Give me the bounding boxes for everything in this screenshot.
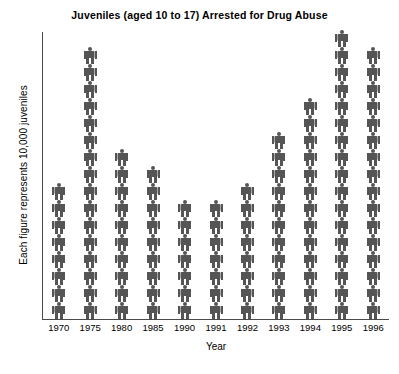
person-figure-icon <box>335 285 348 302</box>
person-figure-icon <box>84 115 97 132</box>
person-figure-icon <box>241 217 254 234</box>
person-figure-icon <box>304 251 317 268</box>
person-figure-icon <box>84 98 97 115</box>
person-figure-icon <box>367 183 380 200</box>
pictograph-chart: Juveniles (aged 10 to 17) Arrested for D… <box>0 0 399 374</box>
person-figure-icon <box>84 200 97 217</box>
x-axis-line <box>42 319 389 320</box>
pictograph-column <box>109 149 135 319</box>
person-figure-icon <box>147 217 160 234</box>
person-figure-icon <box>367 166 380 183</box>
person-figure-icon <box>147 234 160 251</box>
person-figure-icon <box>367 268 380 285</box>
person-figure-icon <box>335 183 348 200</box>
person-figure-icon <box>115 149 128 166</box>
person-figure-icon <box>304 98 317 115</box>
person-figure-icon <box>304 166 317 183</box>
page-title: Juveniles (aged 10 to 17) Arrested for D… <box>0 9 399 21</box>
person-figure-icon <box>335 98 348 115</box>
person-figure-icon <box>210 200 223 217</box>
person-figure-icon <box>147 251 160 268</box>
person-figure-icon <box>367 285 380 302</box>
person-figure-icon <box>335 302 348 319</box>
pictograph-column <box>266 132 292 319</box>
person-figure-icon <box>84 166 97 183</box>
person-figure-icon <box>272 217 285 234</box>
person-figure-icon <box>272 285 285 302</box>
person-figure-icon <box>367 47 380 64</box>
person-figure-icon <box>147 268 160 285</box>
person-figure-icon <box>335 115 348 132</box>
person-figure-icon <box>84 234 97 251</box>
person-figure-icon <box>335 64 348 81</box>
person-figure-icon <box>84 268 97 285</box>
person-figure-icon <box>367 302 380 319</box>
person-figure-icon <box>272 268 285 285</box>
person-figure-icon <box>84 81 97 98</box>
person-figure-icon <box>115 183 128 200</box>
person-figure-icon <box>367 200 380 217</box>
pictograph-column <box>297 98 323 319</box>
person-figure-icon <box>147 166 160 183</box>
person-figure-icon <box>367 217 380 234</box>
person-figure-icon <box>147 183 160 200</box>
person-figure-icon <box>115 217 128 234</box>
person-figure-icon <box>115 234 128 251</box>
person-figure-icon <box>84 183 97 200</box>
person-figure-icon <box>52 285 65 302</box>
person-figure-icon <box>84 251 97 268</box>
person-figure-icon <box>272 149 285 166</box>
person-figure-icon <box>272 132 285 149</box>
person-figure-icon <box>178 268 191 285</box>
person-figure-icon <box>367 132 380 149</box>
person-figure-icon <box>84 217 97 234</box>
person-figure-icon <box>178 302 191 319</box>
person-figure-icon <box>335 268 348 285</box>
person-figure-icon <box>272 200 285 217</box>
person-figure-icon <box>304 115 317 132</box>
person-figure-icon <box>52 302 65 319</box>
person-figure-icon <box>178 234 191 251</box>
person-figure-icon <box>84 47 97 64</box>
person-figure-icon <box>241 268 254 285</box>
person-figure-icon <box>115 200 128 217</box>
x-tick-label: 1996 <box>353 322 393 333</box>
person-figure-icon <box>210 268 223 285</box>
person-figure-icon <box>335 47 348 64</box>
person-figure-icon <box>367 251 380 268</box>
person-figure-icon <box>210 251 223 268</box>
person-figure-icon <box>272 302 285 319</box>
person-figure-icon <box>367 64 380 81</box>
pictograph-column <box>172 200 198 319</box>
person-figure-icon <box>84 132 97 149</box>
person-figure-icon <box>272 166 285 183</box>
person-figure-icon <box>210 302 223 319</box>
pictograph-column <box>329 30 355 319</box>
person-figure-icon <box>210 217 223 234</box>
person-figure-icon <box>52 268 65 285</box>
person-figure-icon <box>241 302 254 319</box>
person-figure-icon <box>52 234 65 251</box>
person-figure-icon <box>84 64 97 81</box>
person-figure-icon <box>147 200 160 217</box>
person-figure-icon <box>304 217 317 234</box>
person-figure-icon <box>84 285 97 302</box>
person-figure-icon <box>335 30 348 47</box>
person-figure-icon <box>52 251 65 268</box>
person-figure-icon <box>367 115 380 132</box>
person-figure-icon <box>147 285 160 302</box>
person-figure-icon <box>241 234 254 251</box>
person-figure-icon <box>335 132 348 149</box>
person-figure-icon <box>241 183 254 200</box>
person-figure-icon <box>84 302 97 319</box>
person-figure-icon <box>241 200 254 217</box>
person-figure-icon <box>304 268 317 285</box>
plot-area <box>43 28 389 319</box>
person-figure-icon <box>304 234 317 251</box>
person-figure-icon <box>304 285 317 302</box>
person-figure-icon <box>304 200 317 217</box>
pictograph-column <box>140 166 166 319</box>
person-figure-icon <box>304 183 317 200</box>
person-figure-icon <box>115 285 128 302</box>
person-figure-icon <box>367 149 380 166</box>
